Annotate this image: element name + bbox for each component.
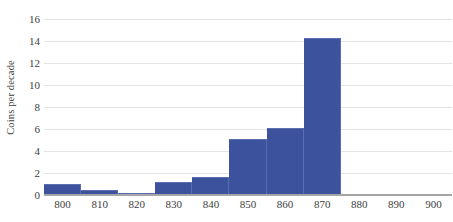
y-tick-label: 0 [18,190,40,201]
x-tick-label: 810 [91,198,108,211]
y-axis-tick-labels: 0246810121416 [18,0,40,200]
y-tick-label: 2 [18,168,40,179]
y-axis-title-label: Coins per decade [5,60,16,135]
bar [229,139,266,195]
y-tick-label: 8 [18,102,40,113]
gridline [44,195,452,196]
x-tick-label: 890 [388,198,405,211]
y-tick-label: 12 [18,58,40,69]
bar [192,177,229,195]
y-tick-label: 16 [18,14,40,25]
y-tick-label: 4 [18,146,40,157]
x-tick-label: 870 [314,198,331,211]
x-axis-line [44,194,452,195]
x-tick-label: 880 [351,198,368,211]
bars [44,19,452,195]
bar [304,38,341,195]
x-tick-label: 820 [128,198,145,211]
plot-area [44,19,452,195]
x-tick-label: 830 [166,198,183,211]
x-tick-label: 860 [277,198,294,211]
x-tick-label: 840 [203,198,220,211]
histogram-chart: Coins per decade 0246810121416 800810820… [0,0,453,222]
y-tick-label: 14 [18,36,40,47]
y-tick-label: 6 [18,124,40,135]
x-tick-label: 900 [425,198,442,211]
x-tick-label: 800 [54,198,71,211]
x-axis-tick-labels: 800810820830840850860870880890900 [44,198,452,218]
bar [267,128,304,195]
y-axis-title: Coins per decade [0,0,20,195]
y-tick-label: 10 [18,80,40,91]
x-tick-label: 850 [240,198,257,211]
